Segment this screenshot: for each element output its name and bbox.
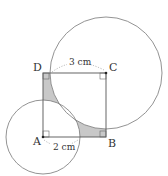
label-c: C	[109, 61, 117, 74]
label-b: B	[108, 137, 116, 150]
center-c-dot	[105, 72, 108, 75]
shaded-region	[43, 73, 106, 137]
dimension-label-bottom: 2 cm	[53, 142, 76, 152]
geometry-diagram: 3 cm 2 cm D C A B	[0, 0, 168, 176]
label-a: A	[32, 135, 42, 148]
label-d: D	[33, 61, 42, 74]
center-a-dot	[42, 136, 45, 139]
dimension-label-top: 3 cm	[69, 57, 92, 67]
